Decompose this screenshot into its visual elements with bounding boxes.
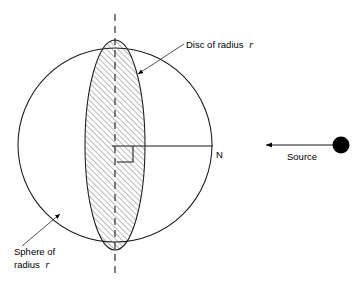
sphere-label-line1: Sphere of bbox=[14, 246, 56, 257]
sphere-label-line2: radius r bbox=[14, 259, 50, 270]
disc-label-text: Disc of radius bbox=[186, 39, 244, 50]
diagram-canvas: Disc of radius r Sphere of radius r N So… bbox=[0, 0, 359, 288]
sphere-label-symbol: r bbox=[46, 259, 50, 270]
source-point-marker bbox=[333, 137, 350, 154]
sphere-label-leader-line bbox=[22, 214, 60, 246]
disc-label-leader-line bbox=[138, 44, 184, 74]
source-label: Source bbox=[287, 151, 317, 162]
disc-label: Disc of radius r bbox=[186, 39, 253, 50]
disc-label-symbol: r bbox=[249, 39, 253, 50]
sphere-label-line2-prefix: radius bbox=[14, 259, 40, 270]
north-pole-label: N bbox=[216, 149, 223, 160]
physics-diagram: Disc of radius r Sphere of radius r N So… bbox=[0, 0, 359, 288]
